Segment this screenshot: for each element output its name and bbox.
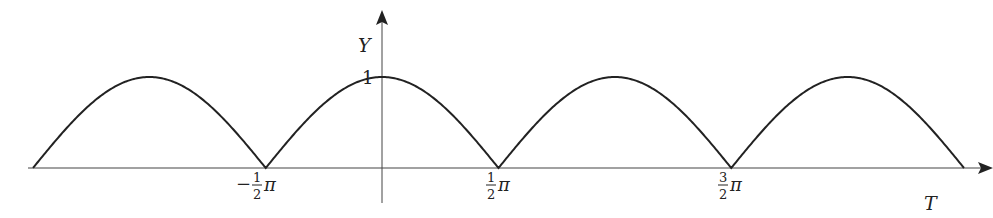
chart-canvas: Y 1 T − 1 2 π 1 2 π 3 2 π (0, 0, 993, 218)
y-axis-label: Y (358, 34, 373, 56)
svg-text:1: 1 (253, 170, 261, 185)
svg-text:−: − (236, 173, 251, 194)
svg-text:π: π (263, 174, 277, 195)
svg-text:1: 1 (487, 170, 495, 185)
x-axis-label: T (924, 192, 938, 214)
y-tick-label-1: 1 (362, 67, 373, 88)
x-tick-three-halves-pi: 3 2 π (718, 170, 743, 202)
svg-text:2: 2 (719, 187, 727, 202)
svg-text:2: 2 (253, 187, 261, 202)
svg-text:2: 2 (487, 187, 495, 202)
svg-text:π: π (729, 174, 743, 195)
curve-abs-cos (33, 77, 964, 168)
svg-text:3: 3 (719, 170, 727, 185)
svg-text:π: π (497, 174, 511, 195)
x-tick-neg-half-pi: − 1 2 π (236, 170, 277, 202)
x-tick-half-pi: 1 2 π (486, 170, 511, 202)
